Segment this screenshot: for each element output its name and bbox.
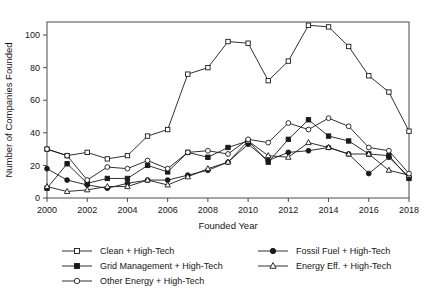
plot-frame: [47, 22, 409, 198]
data-point: [387, 90, 391, 94]
data-point: [145, 158, 150, 163]
data-point: [206, 65, 210, 69]
series-line: [47, 25, 409, 159]
y-tick-label: 40: [30, 128, 40, 138]
data-point: [346, 124, 351, 129]
data-point: [65, 178, 70, 183]
data-point: [266, 140, 271, 145]
data-point: [367, 74, 371, 78]
y-tick-label: 60: [30, 95, 40, 105]
data-point: [286, 121, 291, 126]
x-tick-label: 2004: [117, 205, 137, 215]
data-point: [226, 152, 231, 157]
data-point: [185, 150, 190, 155]
legend-label: Clean + High-Tech: [100, 246, 174, 256]
legend-entry-grid-management-high-tech[interactable]: Grid Management + High-Tech: [62, 261, 223, 271]
data-point: [45, 166, 50, 171]
data-point: [306, 140, 311, 145]
data-point: [306, 118, 310, 122]
x-tick-label: 2006: [158, 205, 178, 215]
data-point: [246, 137, 251, 142]
legend-label: Grid Management + High-Tech: [100, 261, 223, 271]
data-point: [266, 78, 270, 82]
y-tick-label: 0: [35, 193, 40, 203]
data-point: [366, 171, 371, 176]
data-point: [266, 160, 270, 164]
data-point: [306, 148, 311, 153]
data-point: [306, 127, 311, 132]
x-tick-label: 2010: [238, 205, 258, 215]
data-point: [286, 59, 290, 63]
legend-label: Energy Eff. + High-Tech: [296, 261, 391, 271]
x-tick-label: 2016: [359, 205, 379, 215]
series-line: [47, 144, 409, 188]
data-point: [105, 165, 110, 170]
data-point: [186, 72, 190, 76]
legend-entry-energy-eff-high-tech[interactable]: Energy Eff. + High-Tech: [258, 261, 391, 271]
data-point: [125, 176, 129, 180]
legend-marker-filled-circle-icon: [270, 248, 275, 253]
x-tick-label: 2018: [399, 205, 419, 215]
chart-figure: 0204060801002000200220042006200820102012…: [0, 0, 424, 300]
data-point: [85, 178, 90, 183]
data-point: [265, 153, 270, 158]
data-point: [205, 148, 210, 153]
data-point: [125, 153, 129, 157]
legend-entry-fossil-fuel-high-tech[interactable]: Fossil Fuel + High-Tech: [258, 246, 390, 256]
data-point: [226, 39, 230, 43]
x-tick-label: 2012: [278, 205, 298, 215]
data-point: [125, 166, 130, 171]
data-point: [226, 145, 230, 149]
data-point: [386, 167, 391, 172]
y-tick-label: 80: [30, 63, 40, 73]
legend-entry-clean-high-tech[interactable]: Clean + High-Tech: [62, 246, 174, 256]
y-axis-title: Number of Companies Founded: [3, 42, 14, 177]
data-point: [105, 176, 109, 180]
data-point: [105, 184, 110, 189]
x-tick-label: 2008: [198, 205, 218, 215]
data-point: [386, 148, 391, 153]
data-point: [326, 116, 331, 121]
data-point: [346, 139, 350, 143]
data-point: [326, 134, 330, 138]
data-point: [65, 162, 69, 166]
legend-marker-open-triangle-icon: [270, 263, 276, 269]
data-point: [246, 41, 250, 45]
legend-marker-open-square-icon: [75, 249, 80, 254]
data-point: [145, 163, 149, 167]
series-clean-high-tech: [45, 23, 411, 161]
legend-entry-other-energy-high-tech[interactable]: Other Energy + High-Tech: [62, 276, 204, 286]
x-axis-title: Founded Year: [198, 220, 257, 231]
data-point: [85, 150, 89, 154]
legend-marker-open-circle-icon: [74, 278, 79, 283]
data-point: [206, 155, 210, 159]
y-tick-label: 20: [30, 161, 40, 171]
x-tick-label: 2002: [77, 205, 97, 215]
legend-marker-filled-square-icon: [75, 264, 80, 269]
legend-label: Fossil Fuel + High-Tech: [296, 246, 390, 256]
data-point: [366, 145, 371, 150]
data-point: [346, 44, 350, 48]
data-point: [45, 147, 50, 152]
data-point: [387, 153, 391, 157]
line-chart: 0204060801002000200220042006200820102012…: [0, 0, 424, 300]
x-tick-label: 2014: [319, 205, 339, 215]
data-point: [165, 166, 170, 171]
data-point: [165, 127, 169, 131]
data-point: [145, 134, 149, 138]
data-point: [286, 137, 290, 141]
data-point: [326, 25, 330, 29]
y-tick-label: 100: [25, 30, 40, 40]
x-tick-label: 2000: [37, 205, 57, 215]
data-point: [407, 129, 411, 133]
data-point: [105, 157, 109, 161]
data-point: [65, 153, 70, 158]
data-point: [407, 171, 412, 176]
legend-label: Other Energy + High-Tech: [100, 276, 204, 286]
data-point: [306, 23, 310, 27]
